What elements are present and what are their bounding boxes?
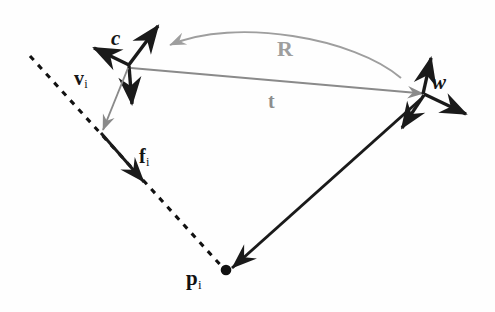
camera-axis-left xyxy=(94,48,129,65)
world-to-point-vector xyxy=(232,99,421,268)
world-origin-label: w xyxy=(432,72,446,93)
point-label-base: p xyxy=(186,266,198,290)
rotation-label: R xyxy=(277,38,293,60)
translation-vector-t xyxy=(131,68,423,94)
camera-origin-label: c xyxy=(111,28,120,49)
world-axis-right-down xyxy=(424,94,466,114)
ray-vector-v xyxy=(103,68,128,130)
point-label-sub: i xyxy=(198,277,202,292)
feature-vector-f xyxy=(101,133,144,182)
world-axis-up xyxy=(423,58,431,94)
pose-diagram-figure: c w vi fi pi t R xyxy=(0,0,495,312)
feature-vector-label-sub: i xyxy=(146,155,149,169)
feature-vector-label-base: f xyxy=(139,145,146,167)
camera-axis-up-right xyxy=(128,26,158,66)
ray-vector-label-sub: i xyxy=(84,77,87,91)
translation-label: t xyxy=(268,91,275,111)
feature-vector-label: fi xyxy=(139,146,149,166)
ray-vector-label: vi xyxy=(74,68,87,88)
point-marker-pi xyxy=(221,265,232,276)
point-label: pi xyxy=(186,268,201,289)
camera-axis-down xyxy=(129,66,132,104)
camera-frame-axes xyxy=(94,26,158,104)
diagram-canvas xyxy=(0,0,495,312)
ray-vector-label-base: v xyxy=(74,67,84,89)
